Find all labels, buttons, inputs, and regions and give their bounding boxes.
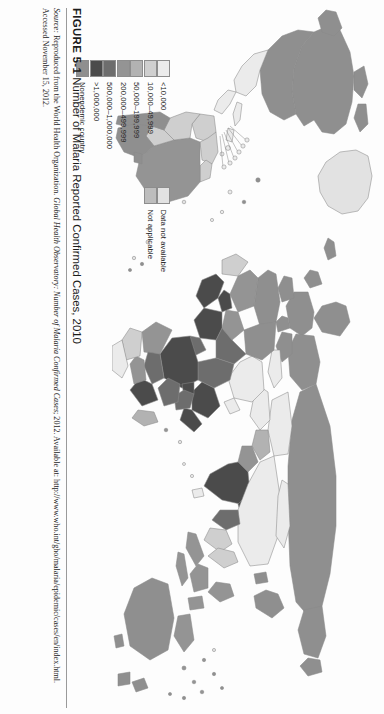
region-new-zealand-n (132, 678, 148, 692)
legend-label: 500,000–1,000,000 (105, 82, 114, 149)
legend-swatch (130, 60, 143, 77)
legend-item: 500,000–1,000,000 (104, 60, 117, 153)
figure-title-text: Number of Malaria Reported Confirmed Cas… (71, 77, 83, 344)
legend-label: 50,000–199,999 (132, 82, 141, 138)
caribbean-leader-dots (222, 138, 249, 169)
region-burkina-faso (218, 290, 232, 312)
legend-swatch (157, 60, 170, 77)
region-arctic-islands-1 (354, 66, 368, 98)
region-scandinavia (314, 302, 350, 336)
region-turkey (268, 350, 282, 388)
legend-label: Data not available (159, 209, 168, 272)
legend-swatch (144, 187, 157, 204)
legend-item: 10,000–49,999 (144, 60, 157, 153)
legend-swatch (103, 60, 116, 77)
legend-swatch (90, 60, 103, 77)
region-eastern-europe (288, 334, 320, 390)
legend-item: 50,000–199,999 (131, 60, 144, 153)
region-yemen-oman (224, 398, 240, 414)
region-zimbabwe (130, 356, 146, 384)
region-myanmar (212, 510, 240, 530)
region-russia-far-east (298, 606, 326, 658)
legend-label: Not applicable (146, 209, 155, 259)
region-iberia (278, 276, 294, 302)
source-publication-title: Global Health Observatory: Number of Mal… (52, 197, 61, 412)
figure-source-note: Source: Reproduced from the World Health… (40, 8, 62, 708)
figure-caption-block: FIGURE 5-1 Number of Malaria Reported Co… (40, 8, 84, 708)
region-cuba (233, 102, 242, 126)
region-indonesia-java (176, 552, 188, 586)
region-madagascar (132, 410, 158, 426)
legend-swatch (144, 60, 157, 77)
region-kamchatka (300, 658, 322, 676)
legend-item: Data not available (158, 187, 171, 272)
region-korea (254, 572, 268, 584)
region-nigeria (194, 308, 222, 340)
legend-label: <10,000 (159, 82, 168, 110)
legend-column-primary: <10,000 10,000–49,999 50,000–199,999 200… (77, 60, 171, 153)
figure-number: FIGURE 5-1 (71, 8, 83, 74)
map-legend: <10,000 10,000–49,999 50,000–199,999 200… (77, 60, 171, 272)
region-philippines (208, 582, 234, 602)
region-tanzania (158, 378, 180, 406)
region-mali (230, 270, 258, 312)
legend-item: >1,000,000 (90, 60, 103, 153)
legend-item: <10,000 (158, 60, 171, 153)
region-italy (276, 316, 290, 332)
region-arctic-islands-2 (354, 104, 368, 132)
region-vietnam (208, 548, 238, 568)
region-sulawesi (188, 596, 204, 610)
legend-item: Not applicable (144, 187, 157, 272)
legend-label: 200,000–499,999 (119, 82, 128, 143)
region-russia (288, 384, 336, 618)
figure-title: FIGURE 5-1 Number of Malaria Reported Co… (70, 8, 84, 708)
region-central-america (214, 90, 236, 114)
region-guianas (200, 160, 212, 182)
legend-column-secondary: Data not available Not applicable (144, 187, 170, 272)
page-canvas: .ln{stroke:#8a8a8a;stroke-width:0.55;str… (0, 0, 384, 714)
region-indonesia-sumatra (186, 532, 204, 566)
region-new-zealand-s (118, 672, 130, 686)
caption-divider (66, 8, 67, 708)
region-australia (124, 578, 174, 660)
region-central-asia (268, 392, 292, 456)
legend-item: 200,000–499,999 (117, 60, 130, 153)
source-text-part-1: Reproduced from the World Health Organiz… (52, 33, 61, 197)
region-sri-lanka (192, 488, 204, 498)
legend-label: >1,000,000 (92, 82, 101, 121)
region-japan (254, 590, 284, 618)
legend-swatch (117, 60, 130, 77)
region-iceland (324, 238, 336, 260)
region-tasmania (114, 634, 124, 648)
region-uk-ireland (304, 270, 322, 288)
region-borneo (190, 564, 208, 592)
legend-swatch (157, 187, 170, 204)
source-label: Source: (52, 8, 61, 33)
region-papua-new-guinea (174, 614, 194, 652)
legend-label: 10,000–49,999 (146, 82, 155, 134)
region-greenland (318, 150, 372, 214)
